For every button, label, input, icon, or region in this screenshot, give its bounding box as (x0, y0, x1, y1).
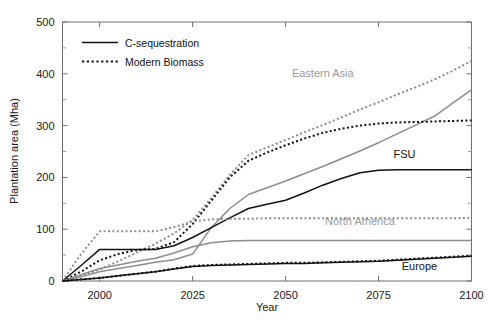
y-tick-label-400: 400 (36, 68, 54, 80)
chart-series (63, 61, 472, 281)
y-tick-label-200: 200 (36, 171, 54, 183)
series-line-eastern-asia-modern-biomass (63, 61, 472, 281)
x-tick-label-2000: 2000 (87, 289, 111, 301)
x-axis-title: Year (256, 301, 279, 313)
plantation-area-line-chart: 0100200300400500 20002025205020752100 Pl… (0, 0, 494, 321)
annotation-north-america: North America (325, 215, 396, 227)
x-axis-tick-labels: 20002025205020752100 (87, 289, 483, 301)
y-axis-title: Plantation area (Mha) (8, 98, 20, 204)
annotation-eastern-asia: Eastern Asia (292, 67, 355, 79)
x-tick-label-2075: 2075 (366, 289, 390, 301)
annotation-europe: Europe (402, 260, 437, 272)
x-tick-label-2100: 2100 (459, 289, 483, 301)
y-tick-label-0: 0 (48, 275, 54, 287)
y-axis-tick-labels: 0100200300400500 (36, 16, 54, 287)
legend-label-modern-biomass: Modern Biomass (125, 56, 204, 68)
y-tick-label-100: 100 (36, 223, 54, 235)
annotation-fsu: FSU (394, 148, 416, 160)
legend-label-c-sequestration: C-sequestration (125, 37, 199, 49)
y-tick-label-500: 500 (36, 16, 54, 28)
chart-figure: 0100200300400500 20002025205020752100 Pl… (0, 0, 494, 321)
chart-legend: C-sequestration Modern Biomass (82, 37, 204, 68)
y-tick-label-300: 300 (36, 120, 54, 132)
x-tick-label-2025: 2025 (180, 289, 204, 301)
x-tick-label-2050: 2050 (273, 289, 297, 301)
series-line-eastern-asia-c-sequestration (63, 90, 472, 281)
series-line-fsu-modern-biomass (63, 120, 472, 281)
